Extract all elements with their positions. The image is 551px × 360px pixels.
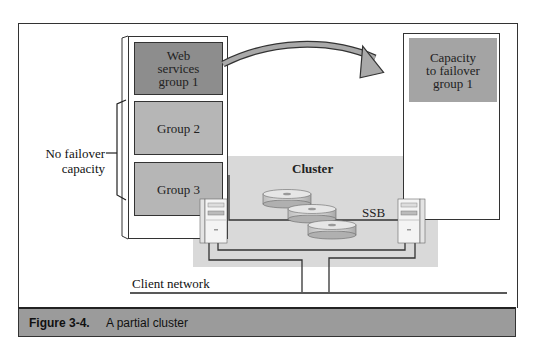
server-tower-icon: [200, 199, 227, 243]
cluster-label: Cluster: [292, 161, 333, 177]
server-tower-icon: [398, 199, 425, 243]
no-failover-line-2: capacity: [40, 161, 105, 176]
client-network-label: Client network: [132, 276, 210, 292]
figure-number: Figure 3-4.: [29, 316, 90, 330]
disk-icon: [263, 190, 356, 240]
figure-caption: A partial cluster: [106, 316, 188, 330]
bracket-icon: [106, 100, 126, 200]
no-failover-line-1: No failover: [40, 146, 105, 161]
failover-arrow-icon: [223, 44, 384, 78]
no-failover-capacity-label: No failover capacity: [40, 146, 105, 176]
ssb-label: SSB: [362, 205, 385, 221]
left-column-depth: [122, 36, 128, 239]
diagram-graphics: [0, 0, 551, 360]
figure-caption-bar: Figure 3-4. A partial cluster: [18, 307, 516, 337]
